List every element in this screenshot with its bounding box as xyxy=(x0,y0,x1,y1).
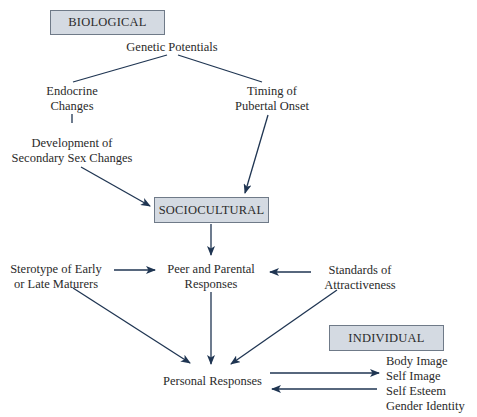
node-text: Timing of xyxy=(222,84,322,99)
node-text: Changes xyxy=(22,99,122,114)
node-development-secondary-sex: Development of Secondary Sex Changes xyxy=(2,136,142,166)
outcome-self-image: Self Image xyxy=(386,369,465,384)
outcome-self-esteem: Self Esteem xyxy=(386,384,465,399)
node-peer-parental-responses: Peer and Parental Responses xyxy=(156,262,266,292)
node-endocrine-changes: Endocrine Changes xyxy=(22,84,122,114)
node-standards-attractiveness: Standards of Attractiveness xyxy=(315,263,405,293)
node-text: Peer and Parental xyxy=(156,262,266,277)
outcome-gender-identity: Gender Identity xyxy=(386,399,465,414)
node-text: or Late Maturers xyxy=(2,277,110,292)
node-personal-responses: Personal Responses xyxy=(155,374,270,389)
section-biological: BIOLOGICAL xyxy=(50,10,165,35)
node-text: Standards of xyxy=(315,263,405,278)
node-text: Development of xyxy=(2,136,142,151)
node-text: Pubertal Onset xyxy=(222,99,322,114)
node-timing-pubertal-onset: Timing of Pubertal Onset xyxy=(222,84,322,114)
node-text: Sterotype of Early xyxy=(2,262,110,277)
node-stereotype-maturers: Sterotype of Early or Late Maturers xyxy=(2,262,110,292)
node-genetic-potentials: Genetic Potentials xyxy=(122,40,222,55)
section-sociocultural: SOCIOCULTURAL xyxy=(154,197,269,223)
node-text: Endocrine xyxy=(22,84,122,99)
individual-outcomes-list: Body Image Self Image Self Esteem Gender… xyxy=(386,354,465,414)
section-individual: INDIVIDUAL xyxy=(329,325,444,351)
node-text: Attractiveness xyxy=(315,278,405,293)
node-text: Responses xyxy=(156,277,266,292)
node-text: Secondary Sex Changes xyxy=(2,151,142,166)
outcome-body-image: Body Image xyxy=(386,354,465,369)
